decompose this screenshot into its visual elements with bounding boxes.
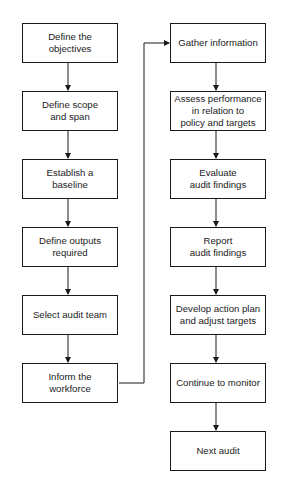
- step-label: Evaluate audit findings: [190, 167, 247, 191]
- step-next-audit: Next audit: [170, 431, 266, 471]
- step-label: Continue to monitor: [176, 377, 260, 389]
- step-define-objectives: Define the objectives: [22, 23, 118, 63]
- step-continue-monitor: Continue to monitor: [170, 363, 266, 403]
- arrow-l6-r1: [119, 43, 169, 383]
- step-select-team: Select audit team: [22, 295, 118, 335]
- step-label: Define the objectives: [48, 31, 92, 55]
- step-assess-performance: Assess performance in relation to policy…: [170, 91, 266, 131]
- step-label: Establish a baseline: [47, 167, 94, 191]
- step-evaluate-findings: Evaluate audit findings: [170, 159, 266, 199]
- step-define-outputs: Define outputs required: [22, 227, 118, 267]
- step-label: Develop action plan and adjust targets: [176, 303, 260, 327]
- step-label: Next audit: [196, 445, 239, 457]
- step-report-findings: Report audit findings: [170, 227, 266, 267]
- step-label: Define scope and span: [42, 99, 98, 123]
- step-gather-information: Gather information: [170, 23, 266, 63]
- step-develop-action-plan: Develop action plan and adjust targets: [170, 295, 266, 335]
- step-label: Assess performance in relation to policy…: [174, 93, 261, 129]
- step-label: Inform the workforce: [48, 371, 91, 395]
- step-label: Select audit team: [33, 309, 107, 321]
- step-label: Define outputs required: [39, 235, 101, 259]
- step-label: Gather information: [178, 37, 257, 49]
- step-label: Report audit findings: [190, 235, 247, 259]
- step-inform-workforce: Inform the workforce: [22, 363, 118, 403]
- step-define-scope: Define scope and span: [22, 91, 118, 131]
- step-establish-baseline: Establish a baseline: [22, 159, 118, 199]
